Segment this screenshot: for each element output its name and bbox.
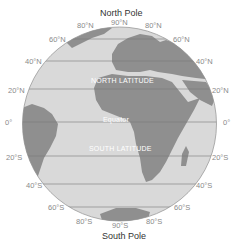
lat-60s-right: 60°S [174, 204, 190, 212]
south-latitude-label: SOUTH LATITUDE [89, 145, 152, 152]
lat-0-left: 0° [5, 119, 12, 127]
lat-80s-left: 80°S [76, 218, 92, 226]
lat-20s-right: 20°S [212, 154, 228, 162]
lat-60n-right: 60°N [173, 36, 190, 44]
lat-20s-left: 20°S [6, 154, 22, 162]
equator-label: Equator [103, 116, 129, 123]
globe [0, 0, 239, 246]
lat-60n-left: 60°N [49, 36, 66, 44]
lat-40n-left: 40°N [25, 58, 42, 66]
lat-60s-left: 60°S [48, 204, 64, 212]
lat-0-right: 0° [223, 119, 230, 127]
lat-20n-left: 20°N [8, 87, 25, 95]
lat-20n-right: 20°N [212, 87, 229, 95]
lat-40s-right: 40°S [196, 182, 212, 190]
north-pole-label: North Pole [100, 9, 143, 18]
lat-40n-right: 40°N [196, 58, 213, 66]
lat-80n-left: 80°N [77, 22, 94, 30]
south-pole-label: South Pole [102, 232, 146, 241]
north-latitude-label: NORTH LATITUDE [91, 77, 154, 84]
lat-80n-right: 80°N [145, 22, 162, 30]
lat-40s-left: 40°S [26, 182, 42, 190]
lat-90s: 90°S [112, 222, 128, 230]
lat-80s-right: 80°S [146, 218, 162, 226]
lat-90n: 90°N [111, 19, 128, 27]
